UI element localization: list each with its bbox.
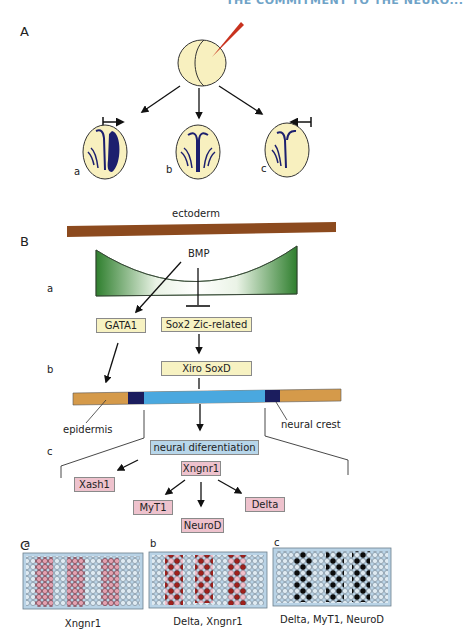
grid-c-delta-myt1-neurod-expression — [273, 548, 391, 606]
grid-b-delta-xngnr1-expression — [149, 552, 267, 608]
grid-a-xngnr1-expression — [23, 553, 143, 609]
grid-a-caption: Xngnr1 — [23, 618, 143, 629]
grid-c-caption: Delta, MyT1, NeuroD — [273, 614, 391, 625]
grid-b-caption: Delta, Xngnr1 — [149, 616, 267, 627]
